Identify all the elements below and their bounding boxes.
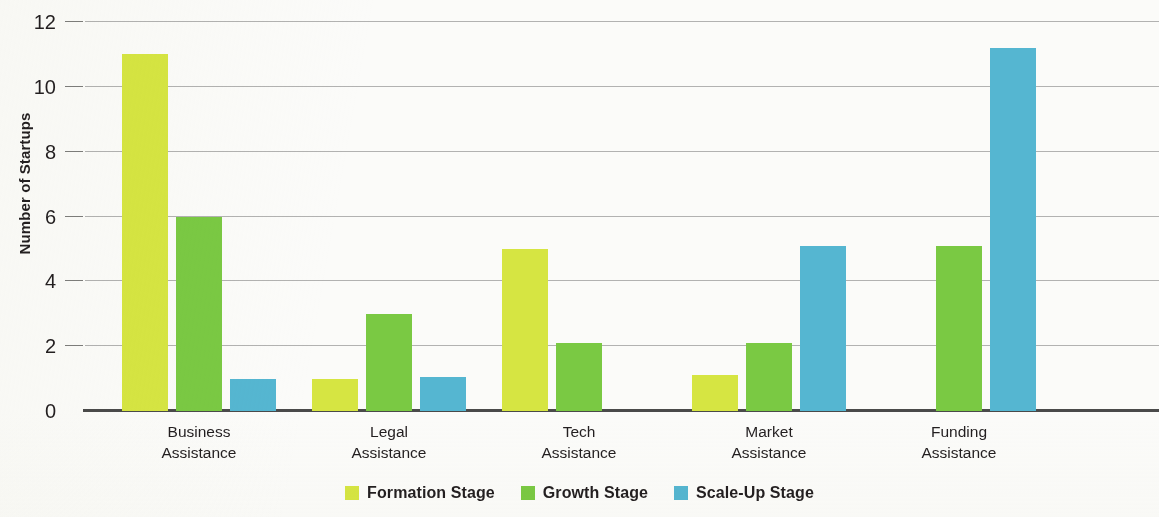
y-axis-tick-label: 12	[0, 12, 56, 32]
bar-chart: Number of Startups 024681012 Business As…	[0, 0, 1159, 517]
y-axis-tick-label: 10	[0, 77, 56, 97]
y-axis-tick-label: 0	[0, 401, 56, 421]
bar	[122, 54, 168, 411]
bar	[692, 375, 738, 411]
legend-label: Formation Stage	[367, 484, 495, 502]
bar	[230, 379, 276, 411]
bar	[990, 48, 1036, 411]
bar	[420, 377, 466, 411]
y-axis-tick-mark	[65, 21, 83, 22]
bar	[746, 343, 792, 411]
gridline	[85, 21, 1159, 22]
legend-item[interactable]: Scale-Up Stage	[674, 484, 814, 502]
y-axis-tick-mark	[65, 86, 83, 87]
bar	[176, 217, 222, 412]
legend-item[interactable]: Formation Stage	[345, 484, 495, 502]
bar	[556, 343, 602, 411]
chart-legend: Formation StageGrowth StageScale-Up Stag…	[0, 484, 1159, 502]
legend-swatch-icon	[521, 486, 535, 500]
x-axis-category-label: Business Assistance	[109, 421, 289, 463]
y-axis-tick-label: 6	[0, 207, 56, 227]
bar	[800, 246, 846, 411]
y-axis-tick-mark	[65, 345, 83, 346]
y-axis-title: Number of Startups	[16, 74, 33, 294]
legend-swatch-icon	[345, 486, 359, 500]
legend-label: Scale-Up Stage	[696, 484, 814, 502]
x-axis-category-label: Funding Assistance	[869, 421, 1049, 463]
bar	[936, 246, 982, 411]
y-axis-tick-label: 2	[0, 336, 56, 356]
plot-area: 024681012	[85, 0, 1159, 412]
y-axis-tick-mark	[65, 151, 83, 152]
y-axis-tick-label: 8	[0, 142, 56, 162]
y-axis-tick-mark	[65, 216, 83, 217]
legend-label: Growth Stage	[543, 484, 648, 502]
x-axis-category-label: Legal Assistance	[299, 421, 479, 463]
bar	[312, 379, 358, 411]
legend-swatch-icon	[674, 486, 688, 500]
y-axis-tick-mark	[65, 280, 83, 281]
bar	[366, 314, 412, 411]
legend-item[interactable]: Growth Stage	[521, 484, 648, 502]
y-axis-tick-label: 4	[0, 271, 56, 291]
x-axis-category-label: Market Assistance	[679, 421, 859, 463]
bar	[502, 249, 548, 411]
x-axis-category-label: Tech Assistance	[489, 421, 669, 463]
